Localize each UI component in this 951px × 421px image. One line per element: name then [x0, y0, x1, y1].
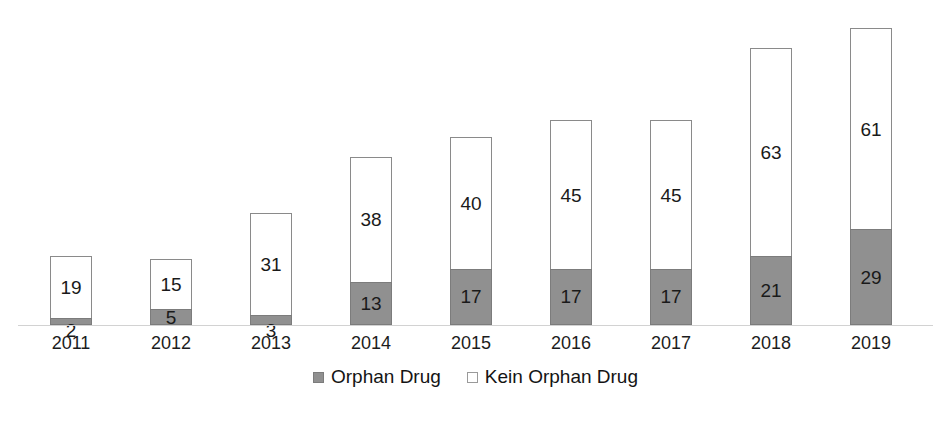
bar-segment-value: 17 — [560, 287, 581, 306]
bar-segment-value: 17 — [660, 287, 681, 306]
bar-stack: 4517 — [550, 120, 592, 325]
bar-segment-orphan-drug[interactable]: 17 — [550, 269, 592, 325]
bar-column[interactable]: 4517 — [550, 120, 592, 325]
bar-segment-orphan-drug[interactable]: 29 — [850, 229, 892, 325]
legend-item-label: Orphan Drug — [331, 366, 441, 388]
bar-segment-value: 38 — [360, 210, 381, 229]
x-axis-tick-label: 2011 — [50, 333, 92, 354]
bar-stack: 6321 — [750, 48, 792, 325]
bar-segment-orphan-drug[interactable]: 17 — [450, 269, 492, 325]
bar-segment-orphan-drug[interactable]: 3 — [250, 315, 292, 325]
bar-segment-value: 61 — [860, 120, 881, 139]
legend-item-label: Kein Orphan Drug — [485, 366, 638, 388]
x-axis-tick-label: 2016 — [550, 333, 592, 354]
bar-stack: 4517 — [650, 120, 692, 325]
bar-stack: 313 — [250, 213, 292, 325]
bar-segment-orphan-drug[interactable]: 17 — [650, 269, 692, 325]
bar-segment-value: 40 — [460, 194, 481, 213]
bar-segment-value: 21 — [760, 281, 781, 300]
bar-segment-kein-orphan-drug[interactable]: 45 — [550, 120, 592, 269]
bar-stack: 4017 — [450, 137, 492, 325]
bar-stack: 192 — [50, 256, 92, 325]
bar-segment-value: 5 — [166, 308, 177, 327]
bar-segment-value: 15 — [160, 275, 181, 294]
bar-segment-orphan-drug[interactable]: 13 — [350, 282, 392, 325]
bar-segment-value: 13 — [360, 294, 381, 313]
bar-segment-value: 45 — [660, 186, 681, 205]
bar-segment-value: 63 — [760, 143, 781, 162]
stacked-bar-chart: 192155313381340174517451763216129 Orphan… — [0, 0, 951, 421]
x-axis-tick-label: 2017 — [650, 333, 692, 354]
x-axis-baseline — [18, 325, 933, 326]
x-axis-tick-label: 2012 — [150, 333, 192, 354]
bar-segment-value: 29 — [860, 268, 881, 287]
x-axis-tick-label: 2014 — [350, 333, 392, 354]
bar-stack: 6129 — [850, 28, 892, 325]
bar-segment-value: 45 — [560, 186, 581, 205]
bar-column[interactable]: 4017 — [450, 137, 492, 325]
bar-segment-kein-orphan-drug[interactable]: 45 — [650, 120, 692, 269]
bar-segment-kein-orphan-drug[interactable]: 19 — [50, 256, 92, 319]
x-axis-tick-label: 2018 — [750, 333, 792, 354]
bar-segment-value: 19 — [60, 278, 81, 297]
bar-column[interactable]: 192 — [50, 256, 92, 325]
bar-segment-kein-orphan-drug[interactable]: 40 — [450, 137, 492, 269]
bar-segment-orphan-drug[interactable]: 21 — [750, 256, 792, 325]
bar-column[interactable]: 4517 — [650, 120, 692, 325]
legend-swatch-icon — [313, 372, 324, 383]
bar-segment-orphan-drug[interactable]: 5 — [150, 309, 192, 326]
bar-segment-kein-orphan-drug[interactable]: 63 — [750, 48, 792, 256]
bar-column[interactable]: 6321 — [750, 48, 792, 325]
x-axis-tick-label: 2013 — [250, 333, 292, 354]
bar-segment-kein-orphan-drug[interactable]: 31 — [250, 213, 292, 315]
chart-legend: Orphan DrugKein Orphan Drug — [0, 366, 951, 388]
bar-segment-value: 31 — [260, 255, 281, 274]
x-axis-tick-label: 2015 — [450, 333, 492, 354]
x-axis-tick-label: 2019 — [850, 333, 892, 354]
bar-segment-kein-orphan-drug[interactable]: 61 — [850, 28, 892, 229]
bar-segment-orphan-drug[interactable]: 2 — [50, 318, 92, 325]
bar-segment-kein-orphan-drug[interactable]: 15 — [150, 259, 192, 309]
bar-column[interactable]: 3813 — [350, 157, 392, 325]
bar-column[interactable]: 6129 — [850, 28, 892, 325]
legend-item[interactable]: Kein Orphan Drug — [467, 366, 638, 388]
legend-item[interactable]: Orphan Drug — [313, 366, 441, 388]
bar-stack: 155 — [150, 259, 192, 325]
bar-stack: 3813 — [350, 157, 392, 325]
plot-area: 192155313381340174517451763216129 — [0, 0, 951, 330]
legend-swatch-icon — [467, 372, 478, 383]
bar-segment-value: 17 — [460, 287, 481, 306]
bar-column[interactable]: 313 — [250, 213, 292, 325]
bar-column[interactable]: 155 — [150, 259, 192, 325]
bar-segment-kein-orphan-drug[interactable]: 38 — [350, 157, 392, 282]
